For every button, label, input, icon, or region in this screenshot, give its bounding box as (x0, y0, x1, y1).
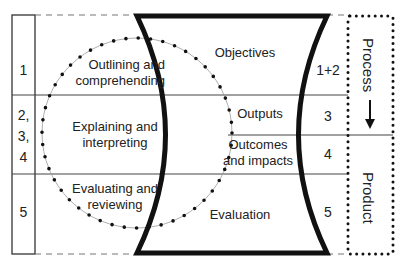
activity-explaining: Explaining and interpreting (65, 119, 165, 151)
activity-outlining-line1: Outlining and (65, 57, 165, 73)
activity-explaining-line1: Explaining and (65, 119, 165, 135)
activity-outlining: Outlining and comprehending (65, 57, 165, 89)
activity-explaining-line2: interpreting (65, 135, 165, 151)
down-arrow-icon (365, 100, 375, 129)
section-number-1-2: 1+2 (308, 61, 348, 79)
row-number-2: 2, (12, 105, 35, 126)
section-outcomes-line2: and impacts (222, 153, 294, 169)
section-outcomes-line1: Outcomes (222, 137, 294, 153)
section-number-3: 3 (310, 107, 346, 125)
section-number-5: 5 (310, 203, 346, 221)
section-evaluation: Evaluation (200, 207, 280, 223)
product-label: Product (360, 172, 377, 224)
section-outcomes-impacts: Outcomes and impacts (222, 137, 294, 169)
activity-evaluating-line1: Evaluating and (65, 181, 165, 197)
section-outputs: Outputs (230, 106, 290, 122)
row-number-1: 1 (12, 61, 35, 79)
row-number-3: 3, (12, 126, 35, 147)
diagram-canvas (0, 0, 409, 269)
process-label: Process (360, 38, 377, 92)
row-number-4: 4 (12, 147, 35, 168)
section-number-4: 4 (310, 145, 346, 163)
activity-evaluating-line2: reviewing (65, 197, 165, 213)
activity-outlining-line2: comprehending (65, 73, 165, 89)
section-objectives: Objectives (205, 45, 285, 61)
activity-evaluating: Evaluating and reviewing (65, 181, 165, 213)
row-number-2-3-4: 2, 3, 4 (12, 105, 35, 168)
row-number-5: 5 (12, 203, 35, 221)
